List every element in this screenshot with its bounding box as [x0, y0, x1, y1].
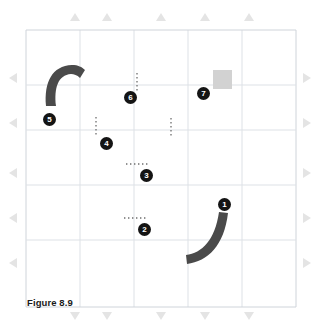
edge-arrow-markers — [9, 13, 311, 320]
marker-5: 5 — [43, 113, 56, 126]
right-edge-arrows — [303, 73, 311, 268]
chevron-right-icon — [303, 118, 311, 128]
top-edge-arrows — [70, 13, 254, 21]
figure-caption: Figure 8.9 — [27, 297, 73, 308]
chevron-left-icon — [9, 118, 17, 128]
chevron-right-icon — [303, 73, 311, 83]
gray-square-shape — [213, 70, 232, 89]
marker-4: 4 — [100, 137, 113, 150]
chevron-down-icon — [156, 312, 166, 320]
chevron-left-icon — [9, 73, 17, 83]
chevron-up-icon — [200, 13, 210, 21]
figure-canvas — [0, 0, 317, 331]
chevron-down-icon — [102, 312, 112, 320]
chevron-down-icon — [200, 312, 210, 320]
chevron-left-icon — [9, 168, 17, 178]
chevron-left-icon — [9, 258, 17, 268]
marker-7: 7 — [197, 87, 210, 100]
chevron-up-icon — [156, 13, 166, 21]
marker-1: 1 — [218, 198, 231, 211]
marker-6: 6 — [124, 91, 137, 104]
chevron-down-icon — [70, 312, 80, 320]
chevron-up-icon — [70, 13, 80, 21]
marker-2: 2 — [138, 223, 151, 236]
chevron-up-icon — [244, 13, 254, 21]
chevron-right-icon — [303, 168, 311, 178]
bottom-edge-arrows — [70, 312, 254, 320]
arc-shape-lower-right — [186, 212, 228, 264]
chevron-right-icon — [303, 258, 311, 268]
chevron-down-icon — [244, 312, 254, 320]
marker-3: 3 — [140, 169, 153, 182]
left-edge-arrows — [9, 73, 17, 268]
chevron-left-icon — [9, 213, 17, 223]
figure-container: 1 2 3 4 5 6 7 Figure 8.9 — [0, 0, 317, 331]
chevron-up-icon — [102, 13, 112, 21]
chevron-right-icon — [303, 213, 311, 223]
